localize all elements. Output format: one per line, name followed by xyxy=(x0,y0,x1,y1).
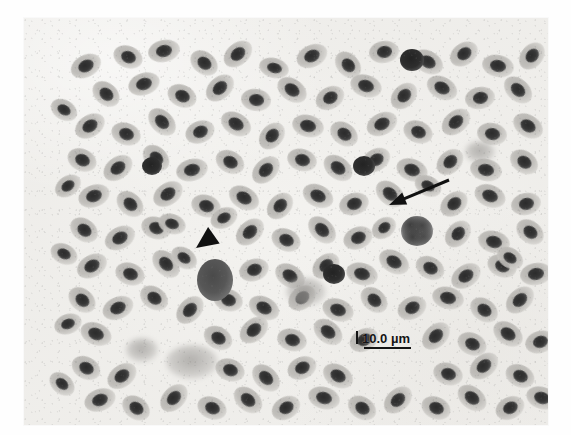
scale-bar-tick xyxy=(356,331,358,344)
stain-artifact xyxy=(286,278,326,306)
dark-small-cell xyxy=(400,49,424,71)
scale-bar-line xyxy=(364,347,411,349)
dark-small-cell xyxy=(323,264,345,284)
scale-bar-label: 10.0 µm xyxy=(356,332,410,345)
stain-artifact xyxy=(465,141,495,163)
dark-small-cell xyxy=(353,156,375,176)
dark-small-cell xyxy=(142,157,162,175)
stain-artifact xyxy=(126,338,158,362)
leukocyte-layer xyxy=(24,18,548,425)
scale-bar: 10.0 µm xyxy=(356,332,410,345)
micrograph-image: 10.0 µm xyxy=(24,18,548,425)
arrowhead-target-cell xyxy=(197,259,233,301)
stain-artifact xyxy=(166,345,218,379)
figure-root: 10.0 µm xyxy=(0,0,571,435)
arrow-target-cell xyxy=(401,216,433,246)
